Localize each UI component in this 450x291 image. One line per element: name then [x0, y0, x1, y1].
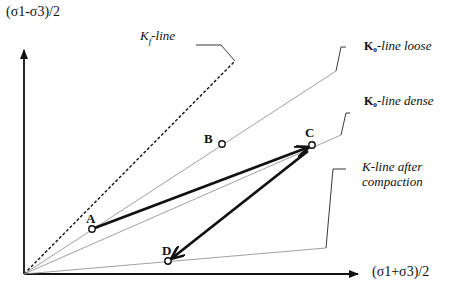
k0-loose-leader — [336, 47, 346, 71]
k0-line-loose — [24, 71, 336, 274]
kf-line-label: Kf-line — [140, 28, 175, 46]
k0-dense-leader — [341, 113, 350, 135]
k0-loose-label-suffix: -line loose — [377, 38, 432, 53]
point-b-label: B — [204, 131, 213, 147]
k0-dense-label-prefix: K₀ — [364, 94, 377, 108]
path-c-to-d — [171, 151, 308, 259]
kf-line — [24, 61, 235, 274]
k0-line-dense — [24, 135, 341, 274]
point-c-label: C — [305, 125, 314, 141]
k0-dense-label-suffix: -line dense — [377, 93, 434, 108]
k0-loose-label: K₀-line loose — [364, 38, 431, 54]
kf-label-prefix: K — [140, 28, 149, 43]
k-line-after-compaction — [24, 248, 326, 274]
kf-leader — [196, 45, 235, 61]
point-d-label: D — [162, 243, 171, 259]
point-c — [309, 142, 315, 148]
x-axis-label: (σ1+σ3)/2 — [372, 264, 429, 280]
k0-dense-label: K₀-line dense — [364, 93, 434, 109]
k-after-label-line2: compaction — [362, 174, 423, 189]
k-after-leader — [326, 169, 346, 248]
k-after-label-line1: K-line after — [362, 159, 423, 174]
y-axis-label: (σ1-σ3)/2 — [6, 4, 60, 20]
k-after-compaction-label: K-line after compaction — [362, 159, 423, 189]
point-a-label: A — [86, 211, 95, 227]
kf-label-suffix: -line — [151, 28, 175, 43]
point-b — [219, 141, 225, 147]
k0-loose-label-prefix: K₀ — [364, 39, 377, 53]
